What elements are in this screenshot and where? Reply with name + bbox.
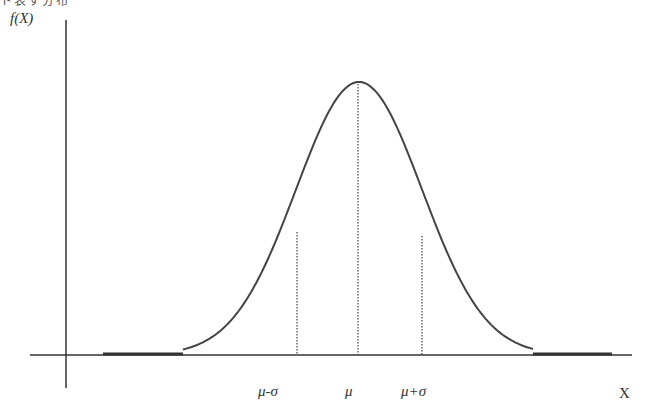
x-axis-label: X: [619, 385, 630, 402]
y-axis-label: f(X): [10, 10, 33, 27]
normal-distribution-diagram: [0, 0, 646, 412]
tick-label-mu: μ: [345, 383, 353, 400]
tick-label-mu-plus-sigma: μ+σ: [401, 383, 426, 400]
tick-label-mu-minus-sigma: μ-σ: [258, 383, 278, 400]
